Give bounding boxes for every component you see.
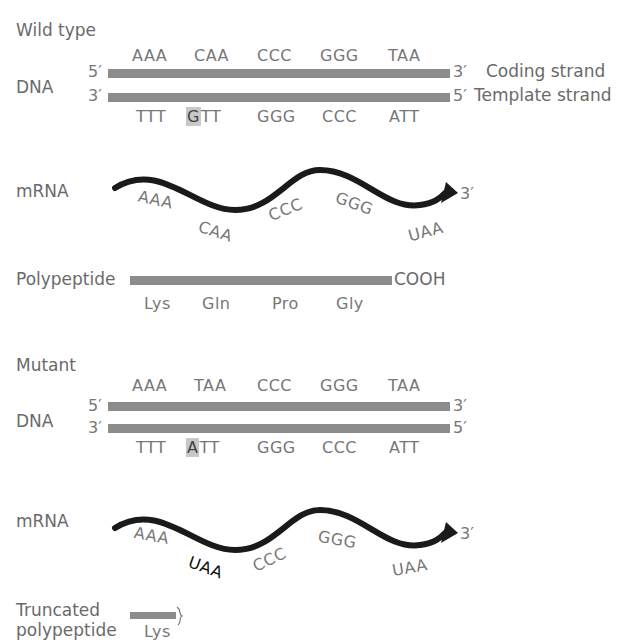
truncated-amino-acid-1: Lys (144, 622, 171, 641)
truncation-mark-icon (0, 0, 642, 644)
